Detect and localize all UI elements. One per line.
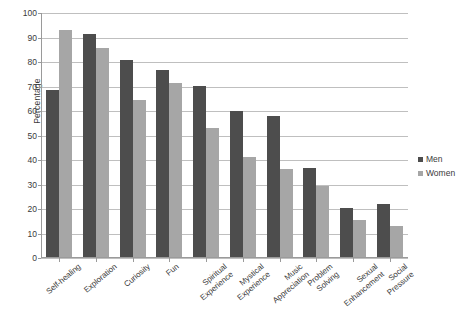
x-axis-label-slot: MusicAppreciation (261, 258, 298, 322)
legend-label: Women (426, 168, 455, 178)
x-axis-label-slot: Curiosity (114, 258, 151, 322)
y-axis-tick-label: 30 (28, 180, 37, 190)
legend-item[interactable]: Women (418, 166, 455, 180)
y-axis-tick-label: 10 (28, 229, 37, 239)
x-axis-label-slot: SpiritualExperience (188, 258, 225, 322)
x-axis-tick-label: Curiosity (122, 262, 152, 290)
bar-chart: Percentage 0102030405060708090100 Self-h… (0, 0, 466, 322)
x-axis-label-slot: ProblemSolving (298, 258, 335, 322)
x-axis-labels: Self-healingExplorationCuriosityFunSpiri… (41, 258, 408, 322)
y-axis-tick-label: 90 (28, 33, 37, 43)
x-axis-label-slot: SocialPressure (371, 258, 408, 322)
y-axis-tick-label: 100 (23, 8, 37, 18)
legend-label: Men (426, 154, 443, 164)
legend-item[interactable]: Men (418, 152, 455, 166)
x-axis-label-slot: MysticalExperience (225, 258, 262, 322)
x-axis-label-slot: Exploration (78, 258, 115, 322)
axis-frame (41, 13, 408, 258)
y-axis-tick-label: 40 (28, 155, 37, 165)
y-axis-tick-label: 60 (28, 106, 37, 116)
y-axis-tick-label: 70 (28, 82, 37, 92)
x-axis-label-slot: Self-healing (41, 258, 78, 322)
x-axis-tick-label: SocialPressure (379, 262, 416, 298)
legend: MenWomen (418, 152, 455, 180)
y-axis-tick-label: 0 (32, 253, 37, 263)
x-axis-label-slot: SexualEnhancement (335, 258, 372, 322)
y-axis-tick-label: 50 (28, 131, 37, 141)
legend-swatch-icon (418, 157, 423, 162)
x-axis-label-slot: Fun (151, 258, 188, 322)
plot-area: 0102030405060708090100 (41, 13, 408, 258)
y-axis-tick-label: 80 (28, 57, 37, 67)
x-axis-tick-label: Fun (165, 262, 182, 279)
legend-swatch-icon (418, 171, 423, 176)
y-axis-tick-label: 20 (28, 204, 37, 214)
